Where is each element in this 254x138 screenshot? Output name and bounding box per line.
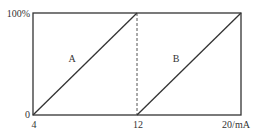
y-tick-100: 100% xyxy=(7,8,30,19)
x-tick-4: 4 xyxy=(32,119,37,130)
series-a-label: A xyxy=(68,53,76,64)
x-tick-12: 12 xyxy=(133,119,143,130)
split-range-chart: 100% 0 4 12 20/mA A B xyxy=(0,0,254,138)
series-b-label: B xyxy=(173,53,180,64)
series-a-line xyxy=(33,13,137,115)
x-tick-20ma: 20/mA xyxy=(222,119,251,130)
y-tick-0: 0 xyxy=(25,109,30,120)
series-b-line xyxy=(137,13,241,115)
